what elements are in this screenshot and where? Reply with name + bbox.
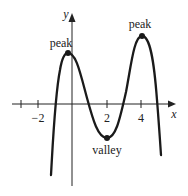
peak-point: [139, 33, 145, 39]
peak-point: [65, 50, 71, 56]
x-tick-label: 4: [138, 111, 144, 125]
y-axis: y: [62, 7, 75, 186]
valley-label: valley: [92, 143, 121, 157]
y-axis-arrow-icon: [69, 13, 76, 22]
x-tick-label: 2: [104, 111, 110, 125]
x-axis-label: x: [170, 107, 177, 121]
peak-label: peak: [50, 36, 73, 50]
x-tick-label: −2: [32, 111, 45, 125]
function-graph: −2 2 4 x y peak valley peak: [0, 0, 188, 196]
peak-label: peak: [129, 17, 152, 31]
valley-point: [104, 135, 110, 141]
y-axis-label: y: [62, 7, 69, 21]
